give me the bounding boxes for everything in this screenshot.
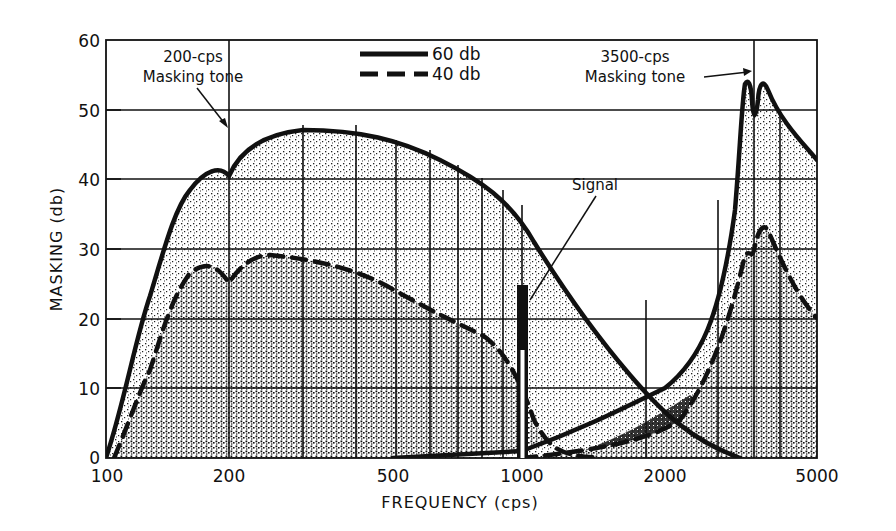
x-tick-2000: 2000	[643, 466, 686, 486]
y-tick-60: 60	[78, 31, 100, 51]
tone3500-label-2: Masking tone	[585, 68, 685, 86]
x-axis-title: FREQUENCY (cps)	[381, 493, 538, 512]
y-tick-20: 20	[78, 310, 100, 330]
x-tick-labels: 100 200 500 1000 2000 5000	[91, 466, 839, 486]
x-tick-1000: 1000	[500, 466, 543, 486]
legend-60db: 60 db	[432, 44, 481, 64]
filled-areas	[106, 82, 817, 458]
y-tick-40: 40	[78, 170, 100, 190]
legend-40db: 40 db	[432, 64, 481, 84]
x-tick-100: 100	[91, 466, 123, 486]
masking-chart: 200-cps Masking tone 3500-cps Masking to…	[0, 0, 896, 531]
x-tick-5000: 5000	[795, 466, 838, 486]
tone200-label-1: 200-cps	[163, 48, 223, 66]
x-tick-500: 500	[377, 466, 409, 486]
y-tick-50: 50	[78, 101, 100, 121]
y-tick-0: 0	[89, 448, 100, 468]
legend: 60 db 40 db	[360, 44, 481, 84]
y-axis-title: MASKING (db)	[47, 187, 66, 311]
x-tick-200: 200	[213, 466, 245, 486]
y-tick-labels: 60 50 40 30 20 10 0	[78, 31, 100, 468]
y-tick-30: 30	[78, 240, 100, 260]
signal-label: Signal	[572, 176, 618, 194]
signal-marker	[517, 285, 528, 458]
tone200-label-2: Masking tone	[143, 68, 243, 86]
tone3500-label-1: 3500-cps	[600, 48, 669, 66]
y-tick-10: 10	[78, 379, 100, 399]
y-ticks	[106, 110, 121, 388]
